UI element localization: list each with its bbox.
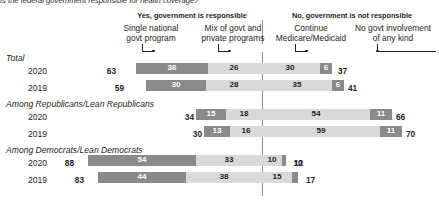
segment-continue-medicare: 10 — [262, 155, 282, 166]
segment-no-involvement — [282, 155, 286, 166]
segment-single-national: 54 — [88, 155, 196, 166]
category-header-mix-govt-private: Mix of govt andprivate programs — [192, 23, 274, 44]
segment-single-national: 30 — [146, 80, 206, 91]
segment-no-involvement: 11 — [380, 126, 402, 137]
segment-value: 15 — [272, 173, 281, 181]
leader-dot-mix-govt-private — [228, 50, 231, 53]
leader-line-no-involvement — [377, 44, 436, 52]
row-yes-total-total-2020: 63 — [96, 66, 116, 76]
header-no-group: No, government is not responsible — [268, 11, 436, 20]
segment-value: 28 — [229, 81, 238, 89]
category-header-continue-medicare: ContinueMedicare/Medicaid — [263, 23, 359, 44]
bar-democrats-2020: 54 33 10 — [88, 155, 286, 166]
segment-mix-govt-private: 26 — [208, 63, 260, 74]
segment-continue-medicare: 59 — [262, 126, 380, 137]
category-header-single-national: Single nationalgovt program — [112, 23, 190, 44]
segment-no-involvement: 11 — [370, 109, 392, 120]
bar-democrats-2019: 44 38 15 — [98, 172, 298, 183]
row-year-total-2020: 2020 — [28, 66, 47, 76]
segment-mix-govt-private: 18 — [226, 109, 262, 120]
bar-total-2019: 30 28 35 6 — [146, 80, 344, 91]
row-year-republicans-2019: 2019 — [28, 129, 47, 139]
segment-value: 11 — [377, 110, 386, 118]
row-year-democrats-2020: 2020 — [28, 158, 47, 168]
diverging-stacked-bar-chart: Is the federal government responsible fo… — [0, 0, 439, 200]
leader-dot-continue-medicare — [305, 50, 308, 53]
segment-mix-govt-private: 33 — [196, 155, 262, 166]
segment-value: 11 — [387, 127, 396, 135]
segment-value: 59 — [316, 127, 325, 135]
row-year-democrats-2019: 2019 — [28, 175, 47, 185]
row-yes-total-republicans-2019: 30 — [182, 129, 202, 139]
bar-republicans-2019: 13 16 59 11 — [204, 126, 402, 137]
segment-no-involvement: 6 — [332, 80, 344, 91]
segment-value: 54 — [311, 110, 320, 118]
segment-mix-govt-private: 38 — [186, 172, 262, 183]
top-note: Is the federal government responsible fo… — [0, 0, 300, 5]
leader-dot-no-involvement — [376, 50, 379, 53]
bar-total-2020: 36 26 30 6 — [136, 63, 332, 74]
leader-dot-single-national — [152, 50, 155, 53]
segment-value: 38 — [219, 173, 228, 181]
row-no-total-republicans-2019: 70 — [406, 129, 428, 139]
row-no-total-republicans-2020: 66 — [396, 112, 418, 122]
row-year-republicans-2020: 2020 — [28, 112, 47, 122]
row-no-total-total-2020: 37 — [338, 66, 360, 76]
segment-single-national: 13 — [204, 126, 230, 137]
row-no-total-democrats-2020: 12 — [294, 158, 316, 168]
category-header-no-involvement: No govt involvementof any kind — [348, 23, 438, 44]
row-yes-total-democrats-2019: 83 — [64, 175, 84, 185]
segment-value: 10 — [267, 156, 276, 164]
segment-continue-medicare: 15 — [262, 172, 292, 183]
segment-value: 16 — [241, 127, 250, 135]
bar-republicans-2020: 15 18 54 11 — [196, 109, 392, 120]
segment-value: 36 — [167, 64, 176, 72]
segment-continue-medicare: 54 — [262, 109, 370, 120]
segment-mix-govt-private: 28 — [206, 80, 262, 91]
segment-value: 6 — [324, 64, 329, 72]
segment-value: 30 — [171, 81, 180, 89]
segment-single-national: 36 — [136, 63, 208, 74]
segment-continue-medicare: 30 — [260, 63, 320, 74]
segment-single-national: 15 — [196, 109, 226, 120]
segment-value: 35 — [292, 81, 301, 89]
segment-no-involvement — [292, 172, 298, 183]
row-yes-total-democrats-2020: 88 — [54, 158, 74, 168]
group-label-republicans: Among Republicans/Lean Republicans — [6, 99, 154, 109]
segment-value: 44 — [137, 173, 146, 181]
segment-value: 18 — [239, 110, 248, 118]
segment-value: 33 — [224, 156, 233, 164]
row-year-total-2019: 2019 — [28, 83, 47, 93]
group-label-total: Total — [6, 53, 24, 63]
segment-value: 26 — [229, 64, 238, 72]
row-yes-total-republicans-2020: 34 — [174, 112, 194, 122]
segment-no-involvement: 6 — [320, 63, 332, 74]
row-no-total-total-2019: 41 — [348, 83, 370, 93]
group-label-democrats: Among Democrats/Lean Democrats — [6, 145, 143, 155]
segment-continue-medicare: 35 — [262, 80, 332, 91]
segment-value: 15 — [206, 110, 215, 118]
header-yes-group: Yes, government is responsible — [118, 11, 266, 20]
segment-value: 6 — [336, 81, 341, 89]
row-yes-total-total-2019: 59 — [104, 83, 124, 93]
segment-value: 54 — [137, 156, 146, 164]
segment-value: 13 — [212, 127, 221, 135]
segment-mix-govt-private: 16 — [230, 126, 262, 137]
row-no-total-democrats-2019: 17 — [306, 175, 328, 185]
segment-value: 30 — [285, 64, 294, 72]
segment-single-national: 44 — [98, 172, 186, 183]
